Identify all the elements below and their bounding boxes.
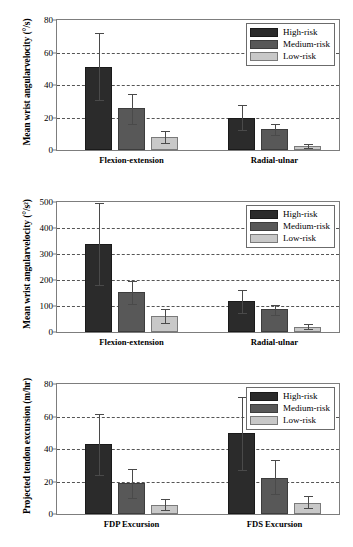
legend-item-low-risk: Low-risk [250,233,330,244]
error-bar [165,309,166,324]
error-cap-lower [161,143,170,144]
x-tick-label: Radial-ulnar [251,337,298,347]
y-tick-mark [53,449,57,450]
legend-swatch-icon [250,222,278,231]
plot-area: 020406080FDP ExcursionFDS ExcursionHigh-… [56,383,340,515]
error-bar [99,414,100,475]
error-cap-lower [271,315,280,316]
y-tick-mark [53,332,57,333]
y-tick-mark [53,514,57,515]
y-tick-mark [53,228,57,229]
error-bar [242,397,243,470]
error-cap-upper [95,414,104,415]
error-cap-lower [238,313,247,314]
error-bar [99,33,100,99]
error-bar [275,460,276,494]
error-bar [242,105,243,131]
error-cap-upper [161,309,170,310]
legend-item-medium-risk: Medium-risk [250,403,330,414]
legend-swatch-icon [250,40,278,49]
error-cap-lower [161,323,170,324]
legend-swatch-icon [250,210,278,219]
error-cap-lower [238,130,247,131]
bar-group [85,202,178,332]
plot-area: 0100200300400500Flexion-extensionRadial-… [56,201,340,333]
error-cap-upper [161,131,170,132]
error-cap-upper [128,469,137,470]
error-cap-lower [128,498,137,499]
error-bar [99,203,100,285]
legend-label: Medium-risk [283,40,330,49]
error-bar [242,290,243,313]
legend-swatch-icon [250,404,278,413]
error-cap-upper [271,305,280,306]
error-cap-lower [304,508,313,509]
error-cap-lower [128,304,137,305]
legend-item-medium-risk: Medium-risk [250,221,330,232]
x-tick-label: Radial-ulnar [251,155,298,165]
y-tick-mark [53,306,57,307]
legend: High-riskMedium-riskLow-risk [246,23,335,66]
error-cap-lower [271,135,280,136]
legend-swatch-icon [250,234,278,243]
error-cap-upper [238,105,247,106]
chart-panel-3: Projected tendon excursion (m/hr)0204060… [0,364,353,547]
legend-label: Low-risk [283,52,316,61]
error-cap-upper [161,499,170,500]
y-axis-label-wrap: Mean wrist angularvelocity (°/s²) [14,196,28,332]
error-bar [275,124,276,136]
y-tick-mark [53,481,57,482]
error-cap-upper [128,94,137,95]
y-tick-mark [53,384,57,385]
legend-item-high-risk: High-risk [250,27,330,38]
legend-item-low-risk: Low-risk [250,415,330,426]
y-tick-mark [53,202,57,203]
error-cap-upper [304,144,313,145]
error-bar [308,496,309,508]
error-cap-lower [95,475,104,476]
y-tick-mark [53,150,57,151]
chart-panel-1: Mean wrist angularvelocity (°/s)02040608… [0,0,353,182]
y-tick-mark [53,280,57,281]
y-tick-mark [53,117,57,118]
legend-label: Low-risk [283,234,316,243]
x-tick-label: Flexion-extension [99,337,163,347]
error-cap-upper [271,124,280,125]
legend-swatch-icon [250,416,278,425]
error-cap-lower [271,494,280,495]
error-cap-upper [304,324,313,325]
legend: High-riskMedium-riskLow-risk [246,387,335,430]
error-cap-lower [95,100,104,101]
y-axis-label-wrap: Projected tendon excursion (m/hr) [14,378,28,514]
figure-three-bar-charts: Mean wrist angularvelocity (°/s)02040608… [0,0,353,547]
legend-label: Medium-risk [283,222,330,231]
legend-label: High-risk [283,28,318,37]
legend-label: High-risk [283,210,318,219]
x-tick-label: FDS Excursion [247,519,303,529]
legend-swatch-icon [250,28,278,37]
y-tick-mark [53,20,57,21]
bar-group [85,384,178,514]
error-cap-lower [304,148,313,149]
error-cap-upper [95,203,104,204]
error-cap-lower [161,510,170,511]
error-bar [275,305,276,315]
legend-label: High-risk [283,392,318,401]
error-cap-upper [128,281,137,282]
y-tick-mark [53,254,57,255]
legend-label: Medium-risk [283,404,330,413]
legend: High-riskMedium-riskLow-risk [246,205,335,248]
error-cap-upper [95,33,104,34]
error-bar [165,499,166,509]
error-cap-upper [304,496,313,497]
x-tick-label: Flexion-extension [99,155,163,165]
legend-swatch-icon [250,52,278,61]
legend-label: Low-risk [283,416,316,425]
y-tick-mark [53,85,57,86]
chart-panel-2: Mean wrist angularvelocity (°/s²)0100200… [0,182,353,364]
y-tick-mark [53,416,57,417]
error-cap-lower [95,285,104,286]
plot-area: 020406080Flexion-extensionRadial-ulnarHi… [56,19,340,151]
legend-swatch-icon [250,392,278,401]
y-axis-label: Projected tendon excursion (m/hr) [22,371,32,521]
